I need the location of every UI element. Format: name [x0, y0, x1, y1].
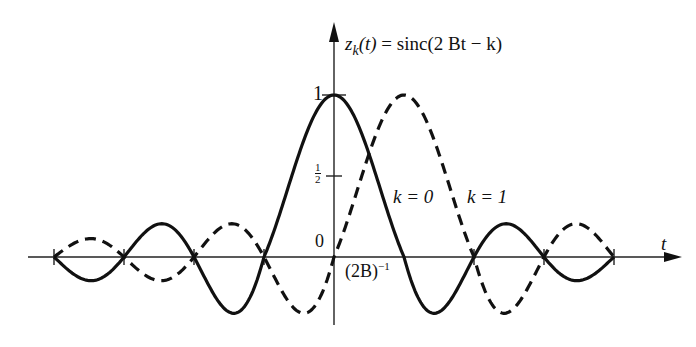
x-axis-label: t: [661, 233, 666, 255]
y-axis-arrow-icon: [329, 22, 339, 42]
plot-title: zk(t) = sinc(2 Bt − k): [345, 33, 502, 59]
x-axis-arrow-icon: [664, 252, 682, 262]
y-tick-one-label: 1: [313, 82, 323, 105]
origin-label: 0: [315, 231, 324, 252]
curve-k1-label: k = 1: [467, 186, 507, 208]
y-tick-half-label: 1 2: [315, 162, 321, 185]
curve-k0-label: k = 0: [393, 186, 433, 208]
x-tick-spacing-label: (2B)−1: [345, 260, 390, 282]
